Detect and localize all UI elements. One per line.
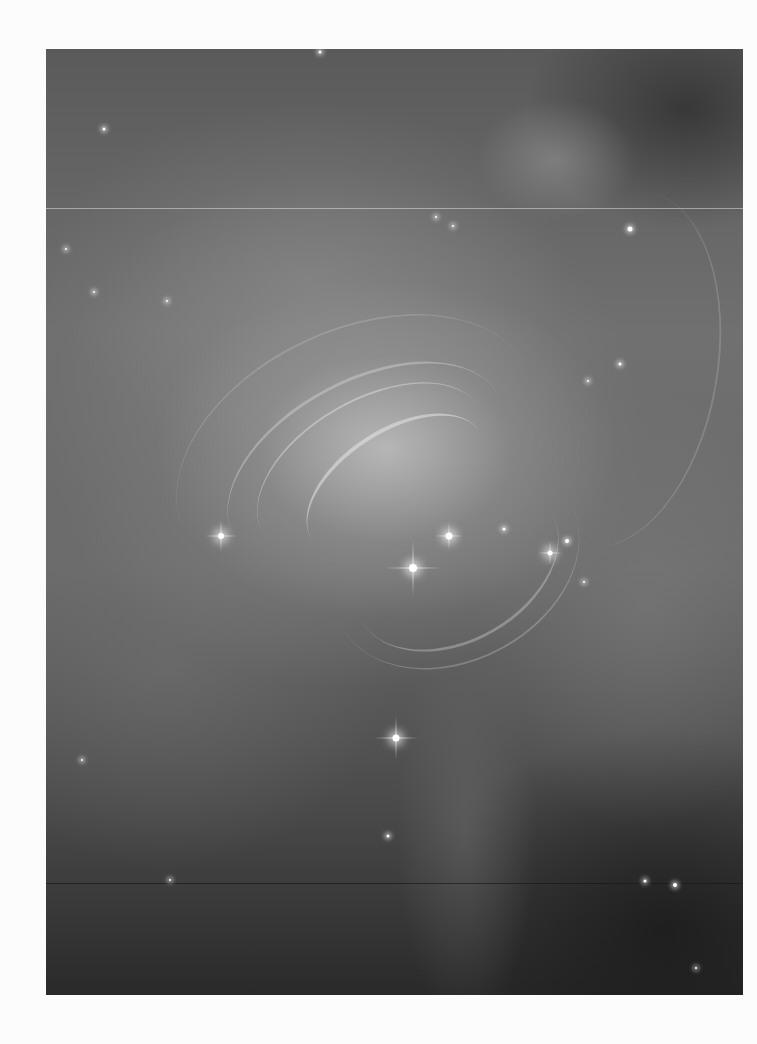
star	[65, 248, 67, 250]
star	[503, 528, 506, 531]
star	[435, 216, 437, 218]
diffraction-spike	[449, 522, 450, 550]
star	[169, 879, 171, 881]
diffraction-spike	[550, 541, 551, 565]
nebula-wisp	[227, 346, 515, 594]
star	[452, 225, 454, 227]
star	[583, 581, 585, 583]
star	[103, 128, 106, 131]
scan-line-artifact	[46, 208, 743, 209]
scan-line-artifact	[46, 883, 743, 884]
page	[0, 0, 757, 1044]
nebula-wisp	[133, 260, 580, 640]
star	[387, 835, 390, 838]
star	[166, 300, 168, 302]
star	[673, 883, 677, 887]
star	[565, 539, 569, 543]
nebula-wisp	[193, 319, 539, 613]
diffraction-spike	[221, 520, 222, 552]
star	[695, 967, 697, 969]
nebula-wisp	[296, 419, 616, 711]
diffraction-spike	[413, 540, 414, 596]
star	[628, 227, 633, 232]
star	[587, 380, 589, 382]
star	[644, 880, 647, 883]
nebula-wisp	[322, 444, 589, 687]
nebula-wisp	[281, 384, 511, 589]
star	[81, 759, 83, 761]
nebula-wisp	[486, 174, 743, 564]
star	[619, 363, 622, 366]
diffraction-spike	[396, 716, 397, 760]
nebula-photograph	[46, 49, 743, 995]
star	[93, 291, 95, 293]
star	[319, 51, 322, 54]
corner-mark	[751, 18, 755, 24]
